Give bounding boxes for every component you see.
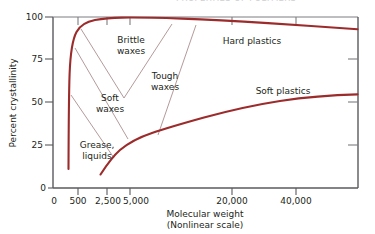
x-tick-label-500: 500	[69, 196, 86, 206]
x-tick-labels: 0 500 2,500 5,000 20,000 40,000	[51, 196, 312, 206]
label-tough-waxes-line1: Tough	[151, 71, 179, 81]
x-axis-title: Molecular weight (Nonlinear scale)	[167, 209, 244, 230]
label-tough-waxes-line2: waxes	[151, 82, 179, 92]
y-tick-label-0: 0	[40, 183, 46, 193]
y-tick-label-25: 25	[32, 140, 43, 150]
label-soft-waxes-line2: waxes	[96, 104, 124, 114]
label-hard-plastics: Hard plastics	[223, 36, 282, 46]
y-axis-ticks	[45, 17, 53, 188]
lower-curve-soft-plastics	[101, 94, 358, 174]
y-tick-labels: 100 75 50 25 0	[26, 12, 46, 193]
y-tick-label-50: 50	[32, 97, 44, 107]
chart-figure: PROPERTIES OF POLYMERS	[0, 0, 375, 234]
crystallinity-chart-svg: 100 75 50 25 0 Percent crystallinity 0	[0, 0, 375, 234]
region-labels: Brittle waxes Tough waxes Soft waxes Gre…	[80, 35, 311, 161]
label-soft-plastics: Soft plastics	[256, 86, 311, 96]
x-tick-label-0: 0	[51, 196, 57, 206]
x-tick-label-20000: 20,000	[216, 196, 248, 206]
x-tick-label-5000: 5,000	[123, 196, 149, 206]
x-tick-label-2500: 2,500	[95, 196, 121, 206]
y-tick-label-75: 75	[32, 54, 43, 64]
label-brittle-waxes-line1: Brittle	[117, 35, 145, 45]
y-axis-title: Percent crystallinity	[8, 58, 18, 148]
label-grease-liquids-line1: Grease,	[80, 140, 115, 150]
x-axis-ticks	[78, 188, 296, 195]
x-axis-title-main: Molecular weight	[167, 209, 244, 219]
y-tick-label-100: 100	[26, 12, 43, 22]
x-axis-title-sub: (Nonlinear scale)	[167, 220, 243, 230]
label-brittle-waxes-line2: waxes	[117, 46, 145, 56]
y-axis-ticks-right	[348, 59, 358, 145]
plot-frame	[53, 17, 358, 188]
x-tick-label-40000: 40,000	[280, 196, 312, 206]
label-grease-liquids-line2: liquids	[82, 151, 112, 161]
label-soft-waxes-line1: Soft	[101, 93, 119, 103]
